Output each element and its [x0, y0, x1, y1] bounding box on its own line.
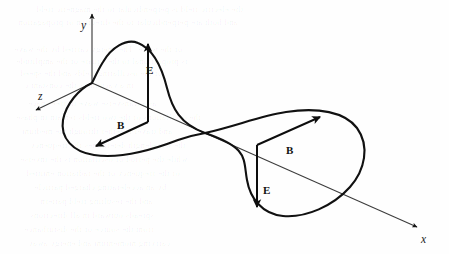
B-vector-left-label: B	[117, 119, 125, 131]
x-axis-label: x	[420, 233, 427, 245]
y-axis-label: y	[80, 19, 87, 32]
figure-canvas: y z x E B B E	[0, 0, 449, 254]
field-vectors-group: E B B E	[96, 44, 320, 207]
em-wave-figure: the electric field is perpendicular to t…	[0, 0, 449, 254]
E-vector-up-label: E	[146, 64, 153, 76]
axes-group: y z x	[36, 14, 427, 245]
electromagnetic-wave-curve	[63, 42, 365, 217]
x-axis-line	[92, 83, 417, 227]
z-axis-label: z	[37, 90, 43, 102]
B-vector-right-label: B	[286, 144, 294, 156]
E-vector-down-label: E	[263, 184, 270, 196]
B-vector-right-arrow	[257, 117, 320, 145]
